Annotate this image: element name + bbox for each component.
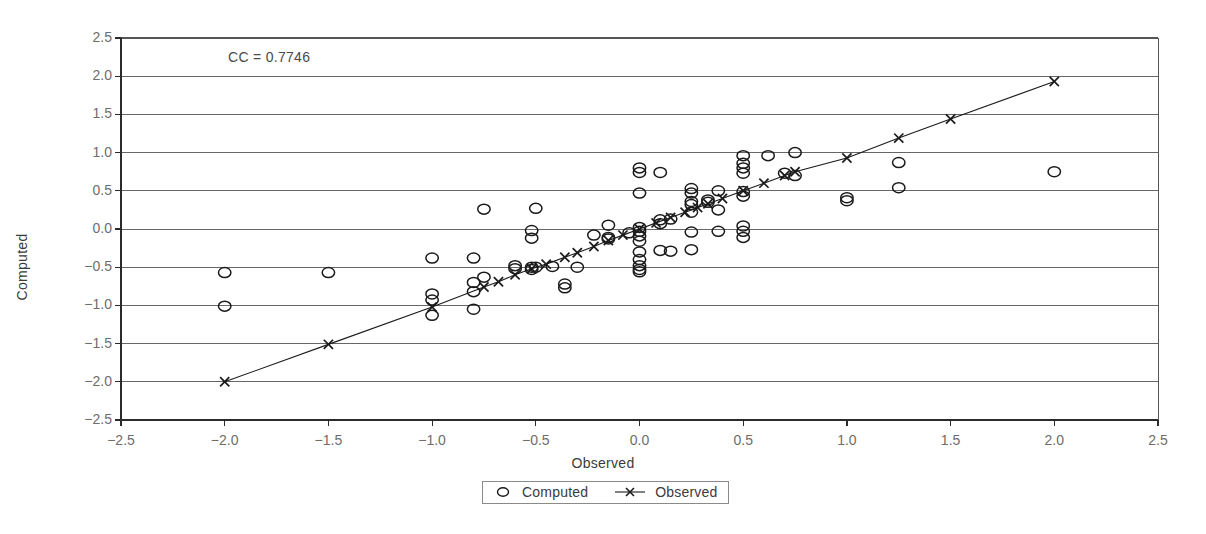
- y-tick-label: −1.0: [60, 296, 112, 312]
- series-computed-points: [219, 148, 1061, 321]
- y-tick-label: 2.0: [60, 67, 112, 83]
- x-tick-label: 0.5: [708, 432, 778, 448]
- legend-item-computed[interactable]: Computed: [493, 484, 588, 500]
- y-tick-label: 0.0: [60, 220, 112, 236]
- x-tick-label: −1.5: [293, 432, 363, 448]
- open-circle-icon: [493, 485, 513, 499]
- x-tick-label: 0.0: [605, 432, 675, 448]
- x-tick-label: −2.5: [86, 432, 156, 448]
- x-tick-label: −2.0: [190, 432, 260, 448]
- y-tick-label: 2.5: [60, 29, 112, 45]
- x-tick-label: 2.5: [1123, 432, 1193, 448]
- x-tick-label: 1.0: [812, 432, 882, 448]
- y-tick-label: −0.5: [60, 258, 112, 274]
- x-tick-label: −1.0: [397, 432, 467, 448]
- scatter-plot-canvas: [0, 0, 1206, 534]
- y-axis-title: Computed: [13, 234, 29, 301]
- y-tick-label: −2.5: [60, 411, 112, 427]
- series-observed-points: [220, 77, 1059, 386]
- y-axis-title-wrap: Computed: [6, 0, 36, 534]
- y-tick-label: −1.5: [60, 335, 112, 351]
- y-tick-label: 0.5: [60, 182, 112, 198]
- legend-label-computed: Computed: [522, 484, 588, 500]
- x-tick-label: 1.5: [916, 432, 986, 448]
- y-tick-label: 1.0: [60, 144, 112, 160]
- series-observed-line: [225, 82, 1055, 382]
- y-tick-label: −2.0: [60, 373, 112, 389]
- x-tick-label: −0.5: [501, 432, 571, 448]
- legend-label-observed: Observed: [655, 484, 717, 500]
- x-tick-label: 2.0: [1019, 432, 1089, 448]
- legend-item-observed[interactable]: Observed: [614, 484, 717, 500]
- correlation-annotation: CC = 0.7746: [228, 49, 310, 65]
- y-tick-label: 1.5: [60, 105, 112, 121]
- x-marker-line-icon: [614, 485, 646, 499]
- chart-root: −2.5−2.0−1.5−1.0−0.50.00.51.01.52.02.5 −…: [0, 0, 1206, 534]
- x-axis-title: Observed: [0, 455, 1206, 471]
- chart-legend: Computed Observed: [482, 481, 729, 504]
- gridlines: [121, 38, 1158, 382]
